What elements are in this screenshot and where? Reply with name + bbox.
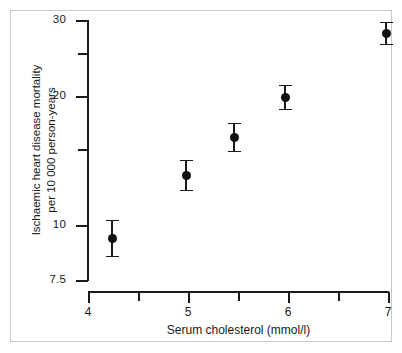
x-axis-tick bbox=[138, 292, 140, 301]
x-axis-tick-label: 7 bbox=[368, 306, 402, 318]
y-axis-title-line1: Ischaemic heart disease mortality bbox=[30, 65, 42, 236]
error-bar-cap-upper bbox=[180, 160, 193, 161]
error-bar-cap-lower bbox=[380, 44, 393, 45]
error-bar-cap-lower bbox=[279, 109, 292, 110]
y-axis-tick bbox=[78, 53, 88, 55]
x-axis-tick-label: 5 bbox=[168, 306, 208, 318]
x-axis-tick bbox=[388, 292, 390, 303]
x-axis-tick-label: 6 bbox=[268, 306, 308, 318]
data-point-marker bbox=[182, 171, 191, 180]
x-axis-tick bbox=[338, 292, 340, 301]
error-bar-cap-lower bbox=[228, 151, 241, 152]
error-bar-cap-upper bbox=[380, 22, 393, 23]
x-axis-tick bbox=[88, 292, 90, 303]
data-point-marker bbox=[230, 133, 239, 142]
data-point-marker bbox=[108, 234, 117, 243]
data-point-marker bbox=[382, 29, 391, 38]
y-axis-tick bbox=[78, 149, 88, 151]
y-axis-title: Ischaemic heart disease mortality per 10… bbox=[29, 20, 59, 280]
error-bar-cap-lower bbox=[106, 256, 119, 257]
x-axis-tick bbox=[238, 292, 240, 301]
scatter-plot-canvas: 3020107.5 4567 Ischaemic heart disease m… bbox=[0, 0, 402, 353]
x-axis-tick bbox=[288, 292, 290, 303]
x-axis-tick-label: 4 bbox=[68, 306, 108, 318]
error-bar-cap-upper bbox=[228, 123, 241, 124]
error-bar-cap-upper bbox=[279, 85, 292, 86]
data-point-marker bbox=[281, 93, 290, 102]
error-bar-cap-lower bbox=[180, 190, 193, 191]
y-axis-tick bbox=[76, 96, 88, 98]
y-axis-tick bbox=[76, 280, 88, 282]
error-bar-cap-upper bbox=[106, 220, 119, 221]
y-axis-tick bbox=[76, 225, 88, 227]
x-axis-title: Serum cholesterol (mmol/l) bbox=[88, 323, 389, 337]
x-axis-tick bbox=[188, 292, 190, 303]
y-axis-title-line2: per 10 000 person-years bbox=[45, 87, 57, 212]
y-axis-tick bbox=[76, 20, 88, 22]
